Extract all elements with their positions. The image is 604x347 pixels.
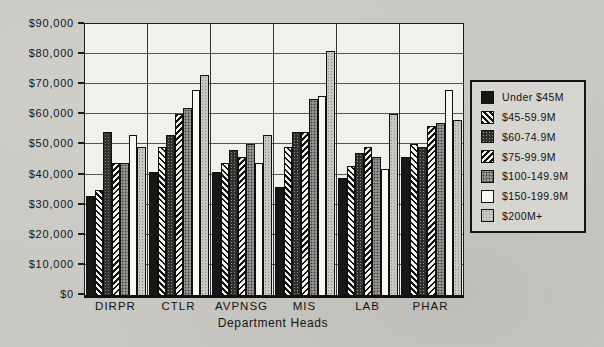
bar (255, 163, 264, 295)
x-axis-label: CTLR (147, 300, 210, 312)
y-axis-tick-mark (78, 203, 84, 205)
bar (212, 172, 221, 295)
legend-label: $60-74.9M (502, 131, 556, 143)
legend: Under $45M$45-59.9M$60-74.9M$75-99.9M$10… (470, 80, 586, 233)
y-axis-tick-label: $40,000 (0, 168, 74, 180)
bar (436, 123, 445, 295)
bar (238, 157, 247, 296)
bar (86, 196, 95, 295)
legend-swatch-icon (481, 111, 494, 124)
y-axis-tick-label: $50,000 (0, 137, 74, 149)
y-axis-tick-mark (78, 233, 84, 235)
bar-group-ctlr (148, 24, 211, 295)
bar-group-dirpr (85, 24, 148, 295)
y-axis-tick-mark (78, 22, 84, 24)
bar (129, 135, 138, 295)
bar (364, 147, 373, 295)
legend-swatch-icon (481, 130, 494, 143)
bar (326, 51, 335, 295)
x-axis-label: PHAR (399, 300, 462, 312)
legend-swatch-icon (481, 190, 494, 203)
bar-group-lab (337, 24, 400, 295)
legend-label: $100-149.9M (502, 170, 568, 182)
legend-swatch-icon (481, 150, 494, 163)
bar (318, 96, 327, 295)
bar (381, 169, 390, 295)
x-axis-label: DIRPR (84, 300, 147, 312)
legend-label: Under $45M (502, 91, 564, 103)
legend-item: $150-199.9M (481, 190, 584, 203)
bar (229, 150, 238, 295)
legend-item: $60-74.9M (481, 130, 584, 143)
plot-area (84, 23, 464, 298)
bar-group-mis (274, 24, 337, 295)
bar (263, 135, 272, 295)
x-axis-label: MIS (273, 300, 336, 312)
bar (166, 135, 175, 295)
bar (175, 114, 184, 295)
y-axis-tick-label: $10,000 (0, 258, 74, 270)
legend-label: $45-59.9M (502, 111, 556, 123)
bar (427, 126, 436, 295)
bar (372, 157, 381, 296)
legend-item: $45-59.9M (481, 111, 584, 124)
bar (120, 163, 129, 295)
y-axis-tick-mark (78, 52, 84, 54)
bar (137, 147, 146, 295)
y-axis-tick-mark (78, 112, 84, 114)
bar (284, 147, 293, 295)
x-axis-label: AVPNSG (210, 300, 273, 312)
bar (338, 178, 347, 295)
bar (275, 187, 284, 295)
bar (301, 132, 310, 295)
legend-label: $150-199.9M (502, 190, 568, 202)
y-axis-tick-mark (78, 293, 84, 295)
bar (445, 90, 454, 295)
legend-item: $100-149.9M (481, 170, 584, 183)
legend-swatch-icon (481, 209, 494, 222)
y-axis-tick-mark (78, 82, 84, 84)
x-axis-title: Department Heads (84, 316, 462, 330)
y-axis-tick-mark (78, 142, 84, 144)
bar-group-avpnsg (211, 24, 274, 295)
legend-label: $200M+ (502, 210, 543, 222)
bar (221, 163, 230, 295)
y-axis-tick-label: $80,000 (0, 47, 74, 59)
y-axis-tick-label: $90,000 (0, 17, 74, 29)
bar (401, 157, 410, 296)
bar (112, 163, 121, 295)
bar (246, 144, 255, 295)
bar (355, 153, 364, 295)
legend-swatch-icon (481, 170, 494, 183)
bar (192, 90, 201, 295)
bar (200, 75, 209, 295)
legend-item: Under $45M (481, 91, 584, 104)
y-axis-tick-label: $20,000 (0, 228, 74, 240)
bar (309, 99, 318, 295)
x-axis-label: LAB (336, 300, 399, 312)
bar (149, 172, 158, 295)
y-axis-tick-label: $70,000 (0, 77, 74, 89)
bar-group-phar (400, 24, 463, 295)
bar (183, 108, 192, 295)
bar (410, 144, 419, 295)
y-axis-tick-mark (78, 263, 84, 265)
chart-figure: DIRPRCTLRAVPNSGMISLABPHAR Department Hea… (0, 0, 604, 347)
bar (103, 132, 112, 295)
legend-swatch-icon (481, 91, 494, 104)
bar (389, 114, 398, 295)
y-axis-tick-label: $60,000 (0, 107, 74, 119)
bar (158, 147, 167, 295)
bar (453, 120, 462, 295)
y-axis-tick-mark (78, 173, 84, 175)
legend-item: $200M+ (481, 209, 584, 222)
x-axis: DIRPRCTLRAVPNSGMISLABPHAR (84, 300, 462, 314)
legend-item: $75-99.9M (481, 150, 584, 163)
bar (418, 147, 427, 295)
bar (292, 132, 301, 295)
y-axis-tick-label: $30,000 (0, 198, 74, 210)
y-axis-tick-label: $0 (0, 288, 74, 300)
legend-label: $75-99.9M (502, 151, 556, 163)
bar (95, 190, 104, 295)
bar (347, 166, 356, 295)
